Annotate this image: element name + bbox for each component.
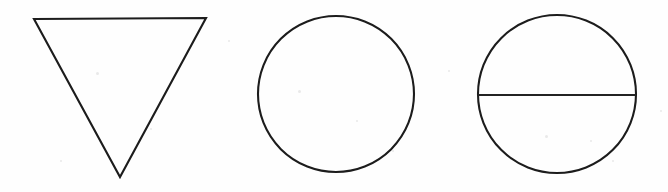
shapes-svg	[0, 0, 668, 192]
figure-canvas	[0, 0, 668, 192]
plain-circle-shape	[258, 16, 414, 172]
inverted-triangle-shape	[34, 18, 206, 177]
